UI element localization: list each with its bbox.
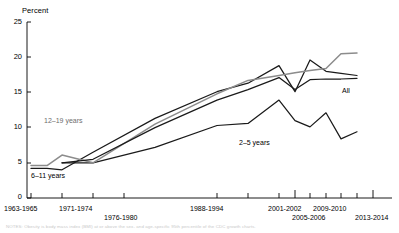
chart-footnote: NOTES: Obesity is body mass index (BMI) … bbox=[6, 224, 256, 229]
series-line-all bbox=[62, 78, 357, 163]
series-line-2-5-years bbox=[62, 100, 357, 163]
chart-container: Percent 25 20 15 10 5 0 1963-1965 1971-1… bbox=[0, 0, 399, 233]
chart-plot-area bbox=[0, 0, 399, 233]
y-tick-marks bbox=[27, 22, 31, 198]
series-line-12-19-years bbox=[31, 53, 357, 166]
x-tick-marks bbox=[31, 190, 373, 198]
series-line-6-11-years bbox=[31, 60, 357, 170]
